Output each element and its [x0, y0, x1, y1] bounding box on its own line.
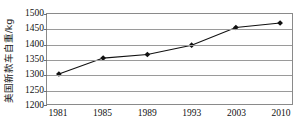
y-axis-tick-label: 1450	[25, 23, 44, 33]
y-axis-tickmark	[44, 29, 47, 30]
y-axis-tickmark	[44, 14, 47, 15]
y-axis-tick-label: 1400	[25, 39, 44, 49]
y-axis-tick-label: 1250	[25, 85, 44, 95]
y-axis-tick-label: 1500	[25, 8, 44, 18]
series-polyline	[59, 23, 280, 74]
plot-area	[46, 13, 293, 105]
y-axis-tickmark	[44, 60, 47, 61]
gridline	[47, 75, 292, 76]
y-axis-tickmark	[44, 105, 47, 106]
gridline	[47, 91, 292, 92]
data-point-marker	[277, 20, 283, 26]
gridline	[47, 60, 292, 61]
y-axis-tick-labels: 1500145014001350130012501200	[15, 7, 44, 111]
y-axis-tickmark	[44, 91, 47, 92]
x-axis-tick-label: 1993	[182, 108, 201, 118]
x-axis-tick-label: 2003	[227, 108, 246, 118]
gridline	[47, 45, 292, 46]
x-axis-tick-label: 1985	[93, 108, 112, 118]
y-axis-title-label: 美国新款车自重/kg	[3, 19, 14, 104]
y-axis-tickmark	[44, 45, 47, 46]
y-axis-tickmark	[44, 75, 47, 76]
data-point-marker	[145, 52, 151, 58]
y-axis-title: 美国新款车自重/kg	[0, 4, 16, 118]
y-axis-tick-label: 1300	[25, 69, 44, 79]
y-axis-tick-label: 1350	[25, 54, 44, 64]
chart-figure: 美国新款车自重/kg 1500145014001350130012501200 …	[0, 0, 302, 132]
x-axis-tick-label: 2010	[272, 108, 291, 118]
x-axis-tick-label: 1989	[138, 108, 157, 118]
x-axis-tick-labels: 198119851989199320032010	[46, 108, 293, 124]
gridline	[47, 29, 292, 30]
x-axis-tick-label: 1981	[49, 108, 68, 118]
y-axis-tick-label: 1200	[25, 100, 44, 110]
